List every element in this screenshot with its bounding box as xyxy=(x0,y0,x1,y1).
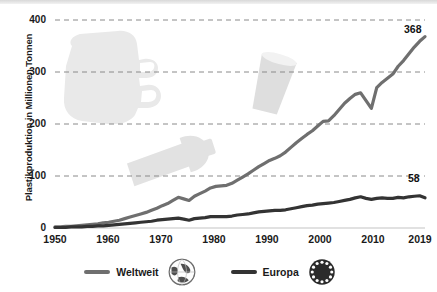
legend-item-europa[interactable]: Europa xyxy=(231,266,299,278)
x-tick-2010: 2010 xyxy=(349,233,397,245)
x-tick-2000: 2000 xyxy=(296,233,344,245)
legend-label-europa: Europa xyxy=(263,266,299,278)
y-tick-100: 100 xyxy=(12,170,46,181)
x-tick-2019: 2019 xyxy=(396,233,437,245)
eu-stars-icon xyxy=(307,257,337,287)
chart-screenshot: Plastikproduktion in Millionen Tonnen 40… xyxy=(0,0,437,292)
plastic-bottle-silhouette xyxy=(124,129,219,191)
x-tick-1960: 1960 xyxy=(84,233,132,245)
x-tick-1990: 1990 xyxy=(243,233,291,245)
chart-plot-area: Plastikproduktion in Millionen Tonnen 40… xyxy=(0,0,437,292)
y-tick-200: 200 xyxy=(12,118,46,129)
plastic-cup-silhouette xyxy=(247,49,298,117)
y-tick-400: 400 xyxy=(12,14,46,25)
legend-swatch-weltweit xyxy=(84,270,110,274)
y-tick-0: 0 xyxy=(12,222,46,233)
legend-swatch-europa xyxy=(231,270,257,274)
globe-icon xyxy=(167,257,197,287)
legend-label-weltweit: Weltweit xyxy=(116,266,158,278)
x-tick-1950: 1950 xyxy=(31,233,79,245)
europa-end-value-label: 58 xyxy=(408,172,420,184)
chart-legend: Weltweit Europa xyxy=(0,252,437,292)
x-tick-1970: 1970 xyxy=(137,233,185,245)
legend-item-weltweit[interactable]: Weltweit xyxy=(84,266,158,278)
y-tick-300: 300 xyxy=(12,66,46,77)
x-tick-1980: 1980 xyxy=(190,233,238,245)
line-chart-svg xyxy=(0,0,437,292)
plastic-bag-silhouette xyxy=(64,31,161,124)
decorative-silhouettes xyxy=(64,31,298,190)
weltweit-end-value-label: 368 xyxy=(404,23,422,35)
